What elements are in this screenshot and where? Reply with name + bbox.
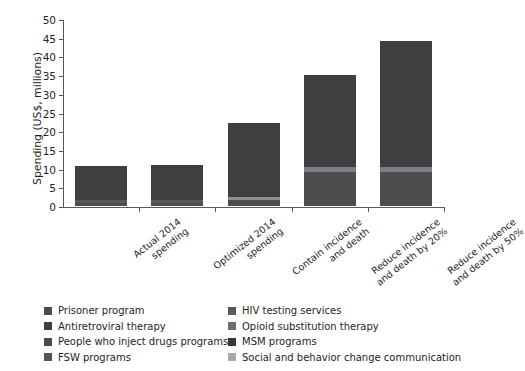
stacked-bar[interactable] xyxy=(75,166,127,206)
x-axis-label: Contain incidenceand death xyxy=(290,216,371,287)
x-axis-label: Reduce incidenceand death by 20% xyxy=(366,216,449,288)
y-axis-tick-label: 10 xyxy=(0,164,63,175)
x-axis-tick-mark xyxy=(368,207,369,212)
legend-swatch-icon xyxy=(44,353,52,361)
legend-label: Opioid substitution therapy xyxy=(242,321,379,332)
legend-label: People who inject drugs programs xyxy=(58,336,228,347)
y-axis-tick-label: 5 xyxy=(0,183,63,194)
legend-label: FSW programs xyxy=(58,352,131,363)
bar-segment xyxy=(75,203,127,206)
y-axis-tick-mark xyxy=(59,20,63,21)
legend-item[interactable]: Antiretroviral therapy xyxy=(44,321,220,332)
y-axis-tick-label: 15 xyxy=(0,146,63,157)
legend-label: Social and behavior change communication xyxy=(242,352,461,363)
plot-area: 05101520253035404550 Actual 2014spending… xyxy=(63,20,444,207)
y-axis-tick-label: 30 xyxy=(0,90,63,101)
bar-segment xyxy=(228,123,280,197)
y-axis-tick-label: 35 xyxy=(0,71,63,82)
legend-item[interactable]: HIV testing services xyxy=(228,305,461,316)
legend-label: MSM programs xyxy=(242,336,317,347)
y-axis-tick-mark xyxy=(59,114,63,115)
legend-item[interactable]: Social and behavior change communication xyxy=(228,352,461,363)
stacked-bar[interactable] xyxy=(228,123,280,206)
y-axis-tick-label: 20 xyxy=(0,127,63,138)
x-axis-tick-mark xyxy=(292,207,293,212)
legend-swatch-icon xyxy=(44,307,52,315)
stacked-bar[interactable] xyxy=(380,41,432,206)
x-axis-line xyxy=(63,207,444,208)
y-axis-tick-mark xyxy=(59,76,63,77)
y-axis-tick-mark xyxy=(59,207,63,208)
stacked-bar[interactable] xyxy=(151,165,203,206)
legend-swatch-icon xyxy=(228,322,236,330)
y-axis-tick-label: 40 xyxy=(0,52,63,63)
legend-swatch-icon xyxy=(44,338,52,346)
bar-segment xyxy=(304,75,356,167)
legend-label: Prisoner program xyxy=(58,305,145,316)
y-axis-tick-mark xyxy=(59,132,63,133)
x-axis-tick-mark xyxy=(215,207,216,212)
legend-label: Antiretroviral therapy xyxy=(58,321,166,332)
bar-segment xyxy=(151,165,203,200)
chart-legend: Prisoner programHIV testing servicesAnti… xyxy=(44,303,444,365)
bar-segment xyxy=(75,166,127,200)
bar-segment xyxy=(304,172,356,206)
legend-swatch-icon xyxy=(228,338,236,346)
y-axis-tick-mark xyxy=(59,188,63,189)
bar-segment xyxy=(151,203,203,206)
x-axis-tick-mark xyxy=(444,207,445,212)
y-axis-tick-mark xyxy=(59,170,63,171)
legend-swatch-icon xyxy=(228,353,236,361)
legend-item[interactable]: Opioid substitution therapy xyxy=(228,321,461,332)
y-axis-tick-mark xyxy=(59,39,63,40)
y-axis-tick-label: 0 xyxy=(0,202,63,213)
legend-item[interactable]: Prisoner program xyxy=(44,305,220,316)
legend-item[interactable]: MSM programs xyxy=(228,336,461,347)
bar-segment xyxy=(228,200,280,206)
legend-swatch-icon xyxy=(44,322,52,330)
legend-swatch-icon xyxy=(228,307,236,315)
y-axis-tick-mark xyxy=(59,57,63,58)
y-axis-tick-mark xyxy=(59,151,63,152)
legend-label: HIV testing services xyxy=(242,305,341,316)
y-axis-line xyxy=(63,20,64,208)
legend-item[interactable]: People who inject drugs programs xyxy=(44,336,220,347)
bar-segment xyxy=(380,41,432,167)
stacked-bar[interactable] xyxy=(304,75,356,206)
x-axis-label: Optimized 2014spending xyxy=(211,216,285,281)
x-axis-tick-mark xyxy=(139,207,140,212)
x-axis-label: Actual 2014spending xyxy=(131,216,190,269)
y-axis-tick-label: 45 xyxy=(0,33,63,44)
legend-item[interactable]: FSW programs xyxy=(44,352,220,363)
x-axis-label: Reduce incidenceand death by 50% xyxy=(442,216,525,288)
bar-segment xyxy=(380,172,432,206)
y-axis-tick-mark xyxy=(59,95,63,96)
y-axis-tick-label: 50 xyxy=(0,15,63,26)
y-axis-tick-label: 25 xyxy=(0,108,63,119)
